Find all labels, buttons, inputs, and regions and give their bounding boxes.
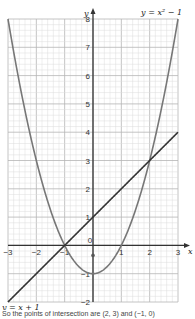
- origin-dot: [91, 254, 95, 258]
- chart: xy−3−2−10123−2−112345678y = x² − 1y = x …: [0, 0, 195, 310]
- y-tick-label: 5: [86, 100, 91, 109]
- x-tick-label: −2: [32, 248, 42, 257]
- series-label-1: y = x + 1: [1, 303, 40, 310]
- x-tick-label: −3: [3, 248, 13, 257]
- y-tick-label: 3: [86, 157, 91, 166]
- y-tick-label: 7: [86, 43, 91, 52]
- series-label-0: y = x² − 1: [140, 8, 182, 17]
- x-tick-label: 0: [88, 236, 93, 245]
- y-tick-label: 2: [86, 185, 91, 194]
- y-tick-label: 6: [86, 72, 91, 81]
- x-axis-label: x: [188, 247, 193, 256]
- y-tick-label: −2: [81, 298, 91, 307]
- y-tick-label: 4: [86, 128, 91, 137]
- footer-text: So the points of intersection are (2, 3)…: [2, 310, 155, 317]
- x-tick-label: 2: [147, 248, 152, 257]
- y-tick-label: 8: [86, 15, 91, 24]
- x-tick-label: 3: [176, 248, 181, 257]
- y-axis-arrow-icon: [91, 8, 96, 14]
